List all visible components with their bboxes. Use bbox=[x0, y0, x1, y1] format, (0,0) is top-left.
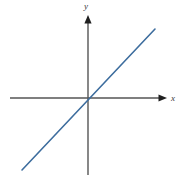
arrow-right-icon bbox=[159, 94, 168, 101]
graph-figure: x y bbox=[0, 0, 182, 175]
y-axis-label: y bbox=[83, 1, 88, 11]
x-axis-label: x bbox=[170, 93, 175, 103]
coordinate-plane: x y bbox=[0, 0, 182, 175]
arrow-up-icon bbox=[84, 15, 91, 24]
